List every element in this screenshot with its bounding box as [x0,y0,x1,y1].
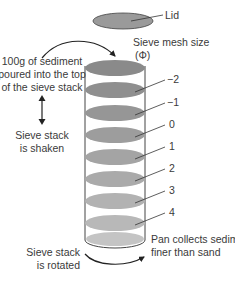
sieve-phi-2 [85,171,145,187]
sieve-label: 2 [169,162,175,174]
mesh-size-label: Sieve mesh size [133,36,210,48]
sieve-label: 4 [169,206,175,218]
sieve-label: −2 [167,73,179,85]
pour-label-line3: of the sieve stack [1,81,83,93]
shake-arrow [39,95,46,125]
lid-label: Lid [165,9,179,21]
pour-label-line2: poured into the top [0,68,86,80]
sieve-label: 3 [169,184,175,196]
rotate-label-line2: is rotated [37,259,80,271]
pan-label-line2: finer than sand [151,246,221,258]
sieve-stack-diagram: Lid 100g of sediment poured into the top… [0,0,235,283]
sieve-label: 1 [169,140,175,152]
sieve-phi-1 [85,149,145,165]
pour-label-line1: 100g of sediment [2,55,83,67]
sieve-phi-minus2 [85,82,145,98]
pan-label-line1: Pan collects sediment [151,233,235,245]
shake-label-line1: Sieve stack [15,129,69,141]
sieve-phi-4 [85,215,145,231]
rotate-arrow [85,254,144,264]
lid: Lid [93,9,179,29]
sieve-phi-0 [85,127,145,143]
shake-label-line2: is shaken [20,142,65,154]
sieve-stack [85,60,145,248]
sieve-phi-minus1 [85,105,145,121]
sieve-label: −1 [167,96,179,108]
mesh-size-unit: (Φ) [135,49,150,61]
top-sediment [85,60,145,76]
pan [86,232,144,246]
sieve-label: 0 [169,118,175,130]
rotate-label-line1: Sieve stack [26,246,80,258]
sieve-phi-3 [85,193,145,209]
